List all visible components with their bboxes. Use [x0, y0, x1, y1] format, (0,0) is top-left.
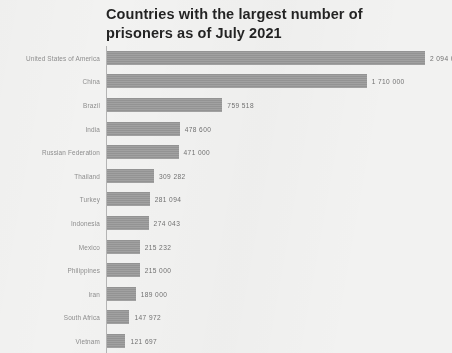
bar-value-label: 309 282 — [159, 172, 186, 179]
bar — [107, 98, 222, 112]
category-label: India — [85, 125, 100, 132]
bar-value-label: 274 043 — [154, 219, 181, 226]
chart-title-line-2: prisoners as of July 2021 — [106, 24, 436, 43]
bar-row: Iran189 000 — [0, 282, 452, 306]
bar-row: Thailand309 282 — [0, 164, 452, 188]
plot-area: United States of America2 094 000China1 … — [0, 46, 452, 353]
category-label: Brazil — [83, 101, 100, 108]
bar-value-label: 121 697 — [130, 337, 157, 344]
bar-row: United States of America2 094 000 — [0, 46, 452, 70]
category-label: Philippines — [67, 267, 100, 274]
bar-row: Philippines215 000 — [0, 258, 452, 282]
bar — [107, 310, 129, 324]
bar-value-label: 215 000 — [145, 267, 172, 274]
bar-row: Brazil759 518 — [0, 93, 452, 117]
category-label: United States of America — [26, 54, 100, 61]
category-label: Iran — [88, 290, 100, 297]
bar-value-label: 2 094 000 — [430, 54, 452, 61]
bar-value-label: 1 710 000 — [372, 78, 405, 85]
bar — [107, 169, 154, 183]
bar-row: Vietnam121 697 — [0, 329, 452, 353]
category-label: Mexico — [79, 243, 100, 250]
bar-row: India478 600 — [0, 117, 452, 141]
bar-row: Turkey281 094 — [0, 188, 452, 212]
bar — [107, 74, 367, 88]
bar-value-label: 478 600 — [185, 125, 212, 132]
chart-title: Countries with the largest number of pri… — [106, 5, 436, 42]
bar — [107, 122, 180, 136]
bar-row: Russian Federation471 000 — [0, 140, 452, 164]
bar-row: Mexico215 232 — [0, 235, 452, 259]
bar — [107, 334, 125, 348]
bar-value-label: 215 232 — [145, 243, 172, 250]
bar-row: Indonesia274 043 — [0, 211, 452, 235]
bar — [107, 216, 149, 230]
bar — [107, 240, 140, 254]
bar — [107, 145, 179, 159]
bar-value-label: 189 000 — [141, 290, 168, 297]
bar-row: China1 710 000 — [0, 70, 452, 94]
bar-value-label: 147 972 — [134, 314, 161, 321]
chart-title-line-1: Countries with the largest number of — [106, 5, 436, 24]
bar-value-label: 759 518 — [227, 101, 254, 108]
category-label: Turkey — [80, 196, 100, 203]
category-label: South Africa — [64, 314, 100, 321]
bar-value-label: 471 000 — [184, 149, 211, 156]
bar-value-label: 281 094 — [155, 196, 182, 203]
bar — [107, 263, 140, 277]
category-label: China — [83, 78, 100, 85]
bar — [107, 287, 136, 301]
bar-row: South Africa147 972 — [0, 306, 452, 330]
bar — [107, 192, 150, 206]
bar — [107, 51, 425, 65]
category-label: Indonesia — [71, 219, 100, 226]
category-label: Thailand — [74, 172, 100, 179]
category-label: Vietnam — [76, 337, 100, 344]
category-label: Russian Federation — [42, 149, 100, 156]
